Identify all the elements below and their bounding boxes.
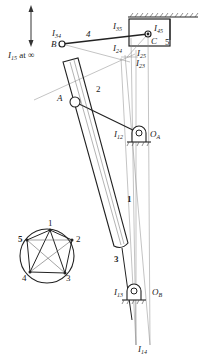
label-i14: I14 (137, 344, 147, 355)
ground-top (128, 13, 198, 17)
i15-direction-arrow (29, 5, 34, 47)
label-a: A (56, 93, 63, 103)
node-5: 5 (18, 234, 23, 244)
label-link-3: 3 (114, 254, 119, 264)
node-3: 3 (66, 273, 71, 283)
label-i15: I15 at ∞ (7, 50, 34, 61)
label-i24: I24 (112, 43, 122, 54)
label-i34: I34 (51, 28, 61, 39)
label-i35: I35 (112, 21, 122, 32)
label-c: C (151, 36, 158, 46)
link-4 (62, 34, 148, 44)
ground-pivot-ob (122, 284, 146, 304)
node-2: 2 (76, 234, 81, 244)
label-i45: I45 (153, 23, 163, 34)
node-4: 4 (22, 273, 27, 283)
label-i23: I23 (135, 58, 145, 69)
label-link-5: 5 (165, 37, 170, 47)
mechanism-diagram: I15 at ∞ (0, 0, 204, 362)
label-oa: OA (150, 129, 161, 140)
label-i12: I12 (113, 129, 123, 140)
label-b: B (51, 39, 57, 49)
label-ob: OB (152, 287, 163, 298)
label-i13: I13 (113, 287, 123, 298)
label-link-1: 1 (127, 194, 132, 204)
label-link-2: 2 (96, 84, 101, 94)
pin-b (59, 41, 65, 47)
label-link-4: 4 (86, 29, 91, 39)
pin-a (70, 97, 80, 107)
instant-center-circle-diagram: 1 2 3 4 5 (18, 218, 81, 283)
node-1: 1 (48, 218, 53, 228)
